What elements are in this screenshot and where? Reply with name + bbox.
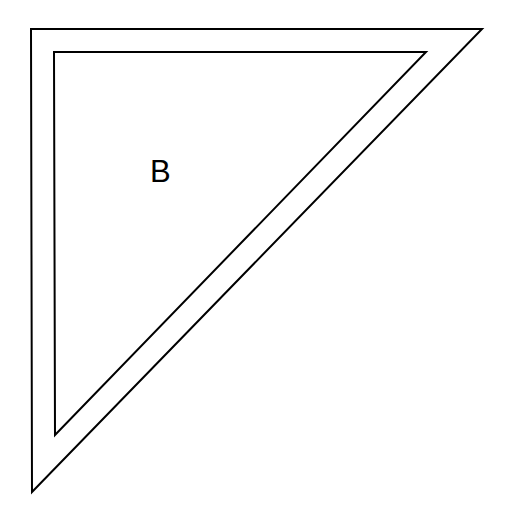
diagram-canvas xyxy=(0,0,509,521)
inner-triangle xyxy=(54,52,426,435)
region-label-b: B xyxy=(150,156,171,187)
outer-triangle xyxy=(31,29,482,492)
